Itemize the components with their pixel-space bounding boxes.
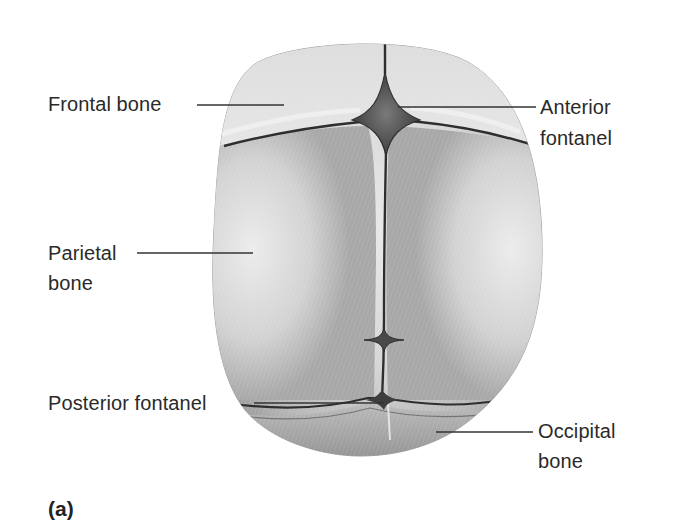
label-occipital-bone-line1: Occipital bbox=[538, 418, 616, 444]
label-frontal-bone: Frontal bone bbox=[48, 91, 162, 117]
label-occipital-bone-line2: bone bbox=[538, 448, 583, 474]
label-parietal-bone-line2: bone bbox=[48, 270, 93, 296]
skull-diagram: Frontal bone Anterior fontanel Parietal … bbox=[0, 0, 676, 528]
label-posterior-fontanel: Posterior fontanel bbox=[48, 390, 207, 416]
label-anterior-fontanel-line1: Anterior bbox=[540, 94, 611, 120]
label-parietal-bone-line1: Parietal bbox=[48, 240, 117, 266]
label-anterior-fontanel-line2: fontanel bbox=[540, 125, 612, 151]
panel-label: (a) bbox=[48, 497, 74, 521]
